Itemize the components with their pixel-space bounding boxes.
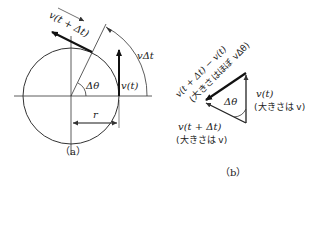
delta-theta-arc	[78, 83, 86, 96]
label-v-t-a: v(t)	[121, 81, 138, 91]
label-v-t-b: v(t)	[256, 89, 273, 99]
label-delta-theta-a: Δθ	[86, 81, 99, 91]
label-v-t-magnitude: (大きさは v)	[254, 103, 305, 112]
label-v-dt: vΔt	[137, 51, 154, 61]
label-v-t-dt-magnitude: (大きさは v)	[176, 136, 227, 145]
delta-theta-arc-b	[234, 109, 246, 117]
label-r: r	[93, 110, 98, 120]
caption-b: （b）	[220, 164, 246, 179]
caption-a: （a）	[60, 143, 86, 158]
label-v-t-dt-b: v(t + Δt)	[178, 122, 221, 132]
label-delta-theta-b: Δθ	[224, 97, 237, 107]
